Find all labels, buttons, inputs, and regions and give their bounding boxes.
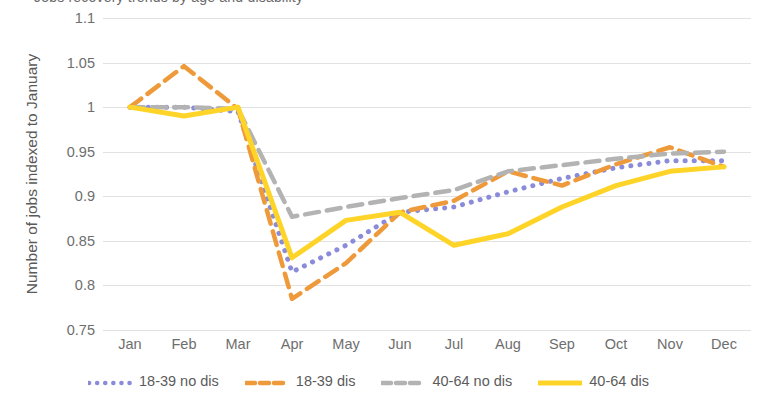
chart-legend: 18-39 no dis18-39 dis40-64 no dis40-64 d… bbox=[88, 369, 728, 393]
legend-swatch-icon bbox=[538, 375, 582, 387]
y-axis-tick-label: 0.75 bbox=[51, 322, 95, 338]
plot-area: 0.750.80.850.90.9511.051.1 JanFebMarAprM… bbox=[103, 18, 751, 330]
legend-label: 40-64 dis bbox=[589, 373, 649, 389]
x-axis-tick-label: Apr bbox=[281, 336, 304, 352]
x-axis-tick-label: Aug bbox=[495, 336, 521, 352]
x-axis-tick-label: Jul bbox=[445, 336, 464, 352]
x-axis-tick-label: May bbox=[332, 336, 359, 352]
y-axis-tick-label: 0.9 bbox=[51, 188, 95, 204]
x-axis-tick-label: Jan bbox=[118, 336, 141, 352]
legend-label: 18-39 dis bbox=[296, 373, 356, 389]
y-axis-tick-label: 1.1 bbox=[51, 10, 95, 26]
series-lines bbox=[103, 18, 751, 330]
x-axis-tick-label: Jun bbox=[388, 336, 411, 352]
series-line bbox=[130, 107, 724, 217]
legend-item[interactable]: 40-64 no dis bbox=[381, 373, 512, 389]
legend-label: 18-39 no dis bbox=[139, 373, 219, 389]
x-axis-tick-label: Dec bbox=[711, 336, 737, 352]
legend-item[interactable]: 18-39 dis bbox=[245, 373, 356, 389]
legend-label: 40-64 no dis bbox=[432, 373, 512, 389]
legend-swatch-icon bbox=[88, 375, 132, 387]
y-axis-tick-label: 1 bbox=[51, 99, 95, 115]
y-axis-title: Number of jobs indexed to January bbox=[23, 14, 41, 334]
x-axis-tick-label: Nov bbox=[657, 336, 683, 352]
series-line bbox=[130, 107, 724, 272]
x-axis-tick-label: Feb bbox=[172, 336, 197, 352]
chart-title-partial: Jobs recovery trends by age and disabili… bbox=[34, 0, 454, 5]
gridline bbox=[103, 330, 751, 331]
line-chart: Jobs recovery trends by age and disabili… bbox=[0, 0, 763, 410]
y-axis-tick-label: 1.05 bbox=[51, 55, 95, 71]
y-axis-tick-label: 0.85 bbox=[51, 233, 95, 249]
x-axis-tick-label: Sep bbox=[549, 336, 575, 352]
legend-swatch-icon bbox=[245, 375, 289, 387]
x-axis-tick-label: Oct bbox=[605, 336, 628, 352]
legend-item[interactable]: 40-64 dis bbox=[538, 373, 649, 389]
y-axis-tick-label: 0.95 bbox=[51, 144, 95, 160]
series-line bbox=[130, 107, 724, 258]
y-axis-tick-label: 0.8 bbox=[51, 277, 95, 293]
legend-swatch-icon bbox=[381, 375, 425, 387]
legend-item[interactable]: 18-39 no dis bbox=[88, 373, 219, 389]
x-axis-tick-label: Mar bbox=[226, 336, 251, 352]
